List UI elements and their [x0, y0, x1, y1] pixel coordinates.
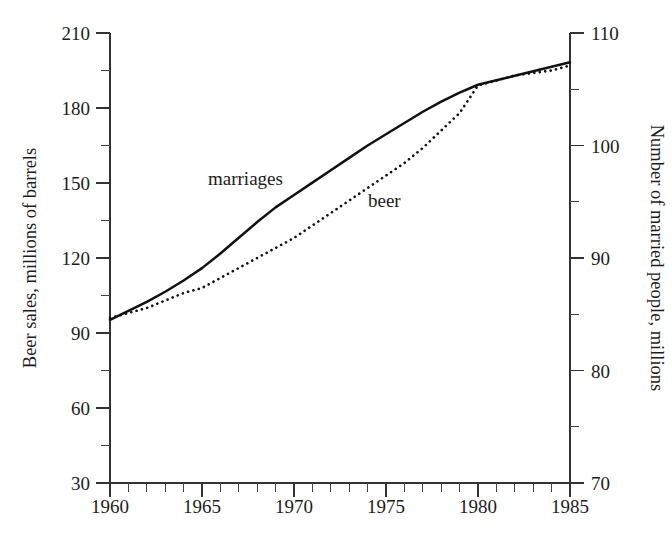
left-axis-title: Beer sales, millions of barrels: [20, 148, 40, 368]
left-tick-label-90: 90: [71, 323, 90, 344]
right-axis-title: Number of married people, millions: [647, 125, 667, 392]
series-line-marriages: [110, 62, 570, 320]
right-tick-label-80: 80: [591, 361, 610, 382]
x-tick-label-1975: 1975: [367, 496, 405, 517]
x-axis-tick-labels: 1960 1965 1970 1975 1980 1985: [91, 496, 589, 517]
right-tick-label-100: 100: [591, 136, 620, 157]
right-tick-label-90: 90: [591, 248, 610, 269]
axis-lines: [110, 33, 570, 483]
left-tick-label-60: 60: [71, 398, 90, 419]
dual-axis-line-chart: 210 180 150 120 90 60 30 110 100 90 80 7…: [0, 0, 672, 542]
x-tick-label-1985: 1985: [551, 496, 589, 517]
right-tick-label-110: 110: [591, 23, 619, 44]
left-tick-label-120: 120: [62, 248, 91, 269]
left-tick-label-30: 30: [71, 473, 90, 494]
left-tick-label-180: 180: [62, 98, 91, 119]
series-line-beer: [110, 66, 570, 319]
left-axis-tick-labels: 210 180 150 120 90 60 30: [62, 23, 91, 494]
x-axis-ticks: [110, 483, 570, 497]
right-axis-ticks: [570, 33, 584, 483]
x-tick-label-1965: 1965: [183, 496, 221, 517]
x-tick-label-1960: 1960: [91, 496, 129, 517]
right-axis-tick-labels: 110 100 90 80 70: [591, 23, 620, 494]
left-tick-label-150: 150: [62, 173, 91, 194]
right-tick-label-70: 70: [591, 473, 610, 494]
left-tick-label-210: 210: [62, 23, 91, 44]
series-annotation-marriages: marriages: [208, 168, 283, 189]
x-tick-label-1970: 1970: [275, 496, 313, 517]
chart-figure: 210 180 150 120 90 60 30 110 100 90 80 7…: [0, 0, 672, 542]
series-annotation-beer: beer: [368, 190, 401, 211]
x-tick-label-1980: 1980: [459, 496, 497, 517]
left-axis-ticks: [96, 33, 110, 483]
